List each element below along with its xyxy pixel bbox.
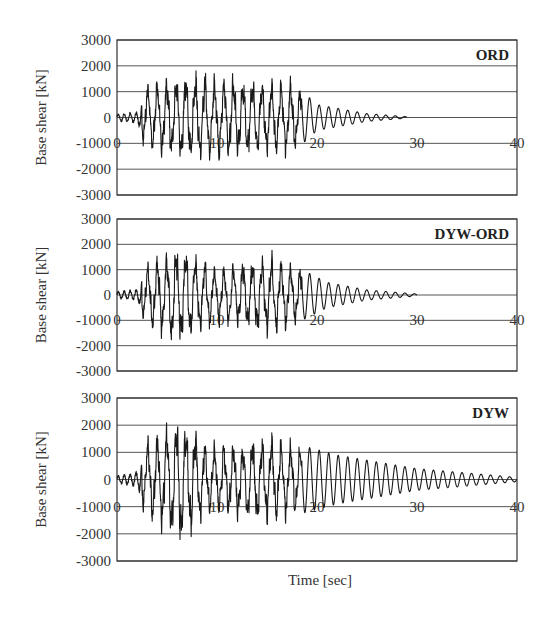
y-tick-label: -1000	[76, 499, 111, 515]
y-axis-label: Base shear [kN]	[33, 247, 49, 344]
y-tick-label: 0	[104, 472, 112, 488]
y-tick-label: -2000	[76, 161, 111, 177]
chart-panel-dyw: 3000200010000-1000-2000-3000010203040Bas…	[33, 390, 525, 569]
x-tick-label: 0	[113, 135, 121, 151]
y-axis-label: Base shear [kN]	[33, 69, 49, 166]
series-ord	[117, 71, 407, 160]
x-tick-label: 30	[410, 312, 425, 328]
figure: Time [sec] 3000200010000-1000-2000-30000…	[0, 0, 554, 620]
y-tick-label: 0	[104, 110, 112, 126]
y-tick-label: -1000	[76, 135, 111, 151]
y-tick-label: 1000	[81, 444, 111, 460]
y-tick-label: 2000	[81, 417, 111, 433]
chart-panel-ord: 3000200010000-1000-2000-3000010203040Bas…	[33, 32, 525, 203]
panel-title: ORD	[476, 47, 510, 63]
y-tick-label: 3000	[81, 32, 111, 48]
y-tick-label: -3000	[76, 187, 111, 203]
panel-title: DYW-ORD	[435, 226, 510, 242]
x-axis-label: Time [sec]	[288, 572, 352, 588]
y-tick-label: -2000	[76, 526, 111, 542]
x-tick-label: 10	[210, 135, 225, 151]
y-axis-label: Base shear [kN]	[33, 431, 49, 528]
x-tick-label: 20	[310, 135, 325, 151]
x-tick-label: 10	[210, 312, 225, 328]
y-tick-label: 2000	[81, 236, 111, 252]
x-tick-label: 40	[510, 312, 525, 328]
panel-title: DYW	[472, 405, 509, 421]
y-tick-label: 1000	[81, 262, 111, 278]
y-tick-label: -1000	[76, 312, 111, 328]
y-tick-label: 3000	[81, 211, 111, 227]
y-tick-label: -3000	[76, 553, 111, 569]
y-tick-label: 1000	[81, 84, 111, 100]
x-tick-label: 40	[510, 135, 525, 151]
y-tick-label: 2000	[81, 58, 111, 74]
x-tick-label: 0	[113, 499, 121, 515]
x-tick-label: 40	[510, 499, 525, 515]
x-tick-label: 20	[310, 499, 325, 515]
series-dyw	[117, 423, 517, 540]
x-tick-label: 30	[410, 499, 425, 515]
chart-panel-dyw-ord: 3000200010000-1000-2000-3000010203040Bas…	[33, 211, 525, 379]
y-tick-label: 0	[104, 287, 112, 303]
y-tick-label: -2000	[76, 338, 111, 354]
x-tick-label: 30	[410, 135, 425, 151]
y-tick-label: 3000	[81, 390, 111, 406]
x-tick-label: 0	[113, 312, 121, 328]
x-tick-label: 20	[310, 312, 325, 328]
y-tick-label: -3000	[76, 363, 111, 379]
x-tick-label: 10	[210, 499, 225, 515]
